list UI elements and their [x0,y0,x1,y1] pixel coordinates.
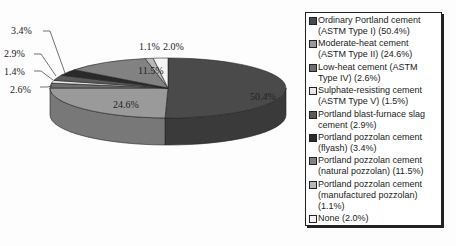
legend-swatch [309,157,317,165]
data-label: 1.1% [139,41,160,52]
legend-item: Portland pozzolan cement (flyash) (3.4%) [309,132,439,154]
data-label: 2.9% [4,48,25,59]
data-label: 2.6% [10,84,31,95]
legend-swatch [309,181,317,189]
legend-label: Portland pozzolan cement (manufactured p… [318,179,439,212]
legend-label: Portland pozzolan cement (flyash) (3.4%) [318,132,439,154]
data-label: 11.5% [138,65,163,76]
legend-item: Portland blast-furnace slag cement (2.9%… [309,109,439,131]
chart-legend: Ordinary Portland cement (ASTM Type I) (… [305,12,442,226]
legend-item: Ordinary Portland cement (ASTM Type I) (… [309,15,439,37]
data-label: 24.6% [113,99,139,110]
legend-item: Sulphate-resisting cement (ASTM Type V) … [309,85,439,107]
legend-swatch [309,17,317,25]
legend-label: Sulphate-resisting cement (ASTM Type V) … [318,85,439,107]
legend-label: Portland pozzolan cement (natural pozzol… [318,155,439,177]
legend-item: Portland pozzolan cement (natural pozzol… [309,155,439,177]
legend-swatch [309,64,317,72]
legend-swatch [309,111,317,119]
legend-label: Low-heat cement (ASTM Type IV) (2.6%) [318,62,439,84]
data-label: 2.0% [163,41,184,52]
legend-item: Moderate-heat cement (ASTM Type II) (24.… [309,38,439,60]
pie-chart: 50.4%24.6%2.6%1.4%2.9%3.4%11.5%1.1%2.0% [0,0,300,246]
leader-line [34,54,56,76]
legend-label: Portland blast-furnace slag cement (2.9%… [318,109,439,131]
data-label: 1.4% [4,66,25,77]
data-label: 50.4% [250,91,276,102]
leader-line [43,31,65,73]
legend-item: None (2.0%) [309,213,439,224]
data-label: 3.4% [11,25,32,36]
legend-swatch [309,215,317,223]
legend-item: Low-heat cement (ASTM Type IV) (2.6%) [309,62,439,84]
legend-swatch [309,87,317,95]
leader-line [34,71,53,80]
legend-swatch [309,134,317,142]
legend-label: None (2.0%) [318,213,439,224]
legend-item: Portland pozzolan cement (manufactured p… [309,179,439,212]
legend-swatch [309,40,317,48]
legend-label: Ordinary Portland cement (ASTM Type I) (… [318,15,439,37]
legend-label: Moderate-heat cement (ASTM Type II) (24.… [318,38,439,60]
